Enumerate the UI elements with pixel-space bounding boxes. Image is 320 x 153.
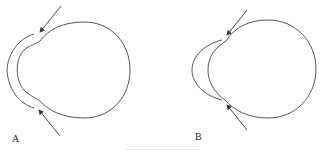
panel-b-outer-arc [192,40,222,100]
panel-a-drawing [7,6,130,136]
panel-b-label: B [195,131,202,142]
figure: A B [0,0,320,153]
eye-diagram [0,0,320,153]
panel-a-label: A [12,133,19,144]
panel-a-arrow-top-icon [40,6,61,32]
panel-a-arrow-bottom-icon [39,110,60,136]
panel-b-globe-outline [208,20,316,118]
panel-b-drawing [192,10,316,130]
panel-a-globe-outline [17,22,130,118]
figure-caption-line [126,149,200,150]
panel-b-arrow-bottom-icon [227,105,247,130]
panel-a-outer-arc [7,34,34,108]
panel-b-arrow-top-icon [227,10,247,35]
